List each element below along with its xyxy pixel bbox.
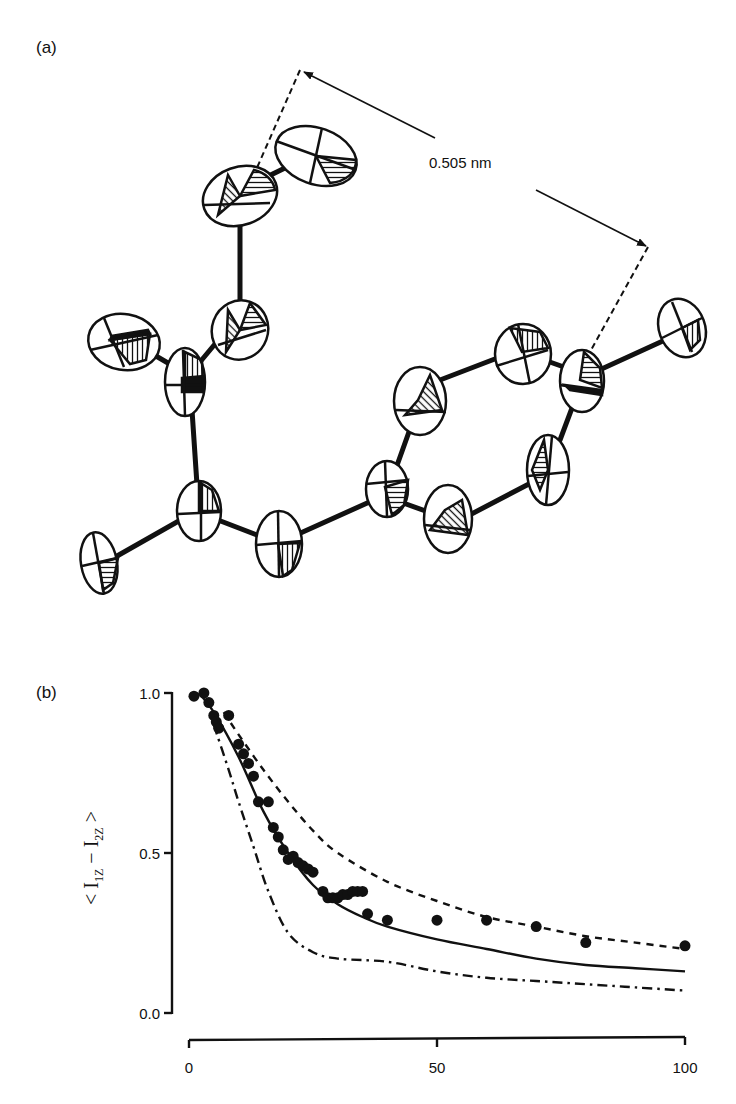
dashed-guide-right: [590, 247, 648, 352]
plot-area: [188, 688, 690, 991]
chart-b: 1.0 0.5 0.0 < I1Z − I2Z > 0 50 100: [80, 685, 698, 1076]
data-point: [382, 915, 393, 926]
data-point: [680, 940, 691, 951]
atom-ellipse: [203, 292, 276, 368]
atom-ellipse: [165, 348, 205, 416]
atom-ellipse: [267, 115, 365, 196]
data-point: [580, 937, 591, 948]
y-axis: [164, 692, 172, 1014]
atom-ellipse: [560, 350, 604, 412]
atom-ellipse: [495, 324, 551, 384]
data-point: [188, 691, 199, 702]
atom-ellipse: [366, 461, 408, 517]
y-tick-label: 0.5: [139, 845, 160, 862]
x-axis: [189, 1037, 685, 1048]
atom-ellipse: [424, 485, 472, 553]
data-point: [357, 886, 368, 897]
y-tick-label: 1.0: [139, 685, 160, 702]
distance-label: 0.505 nm: [429, 154, 492, 171]
data-point: [263, 796, 274, 807]
atom-ellipse: [527, 435, 569, 505]
atom-ellipse: [256, 511, 302, 577]
atom-ellipse: [177, 481, 221, 541]
atom-ellipse: [194, 156, 285, 236]
data-point: [308, 867, 319, 878]
atom-ellipse: [84, 308, 165, 376]
x-tick-label: 50: [429, 1059, 446, 1076]
data-point: [432, 915, 443, 926]
atom-ellipse: [650, 292, 714, 364]
x-tick-label: 100: [672, 1059, 697, 1076]
distance-marker: [256, 70, 648, 352]
arrow-right: [536, 190, 646, 246]
atom-ellipse: [76, 529, 122, 596]
atom-ellipse: [394, 367, 446, 435]
y-tick-label: 0.0: [139, 1005, 160, 1022]
dashed-curve: [224, 712, 685, 949]
x-tick-label: 0: [185, 1059, 193, 1076]
svg-text:< I1Z − I2Z >: < I1Z − I2Z >: [80, 811, 106, 905]
y-axis-label: < I1Z − I2Z >: [80, 811, 106, 905]
molecule-diagram: 0.505 nm: [76, 70, 714, 597]
